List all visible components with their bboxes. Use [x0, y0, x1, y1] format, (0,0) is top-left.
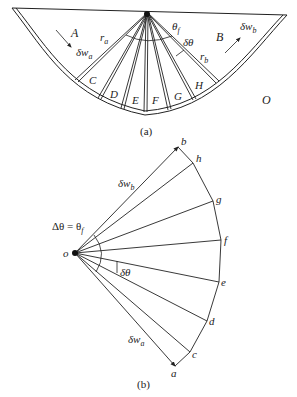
- delta-theta-label: δθ: [183, 36, 194, 48]
- region-label-f: F: [151, 94, 159, 106]
- point-label-a: a: [171, 367, 177, 379]
- caption-a: (a): [140, 125, 153, 138]
- r-b-label: rb: [200, 50, 208, 65]
- delta-w-a-label: δwa: [76, 46, 92, 61]
- origin-point: [72, 250, 78, 256]
- delta-theta-eq-label: Δθ = θf: [52, 220, 85, 235]
- r-a-label: ra: [100, 31, 108, 46]
- figure-b: o b h g f e d c a Δθ = θf δθ δwb δwa (b): [52, 135, 229, 391]
- region-label-d: D: [109, 88, 118, 100]
- point-label-b: b: [181, 135, 187, 147]
- region-label-o: O: [262, 93, 271, 107]
- delta-theta-label-b: δθ: [120, 266, 131, 278]
- point-label-h: h: [196, 152, 202, 164]
- region-label-g: G: [174, 90, 182, 102]
- region-label-e: E: [131, 94, 139, 106]
- apex-point: [144, 11, 150, 17]
- delta-w-a-label-b: δwa: [128, 333, 144, 348]
- delta-w-b-label-b: δwb: [118, 177, 134, 192]
- figure-canvas: A B C D E F G H O δwa δwb ra rb θf δθ (a…: [0, 0, 297, 397]
- point-label-e: e: [221, 276, 226, 288]
- delta-w-b-arrow: [225, 38, 240, 53]
- region-label-b: B: [216, 30, 224, 44]
- delta-w-a-arrow: [56, 30, 71, 47]
- delta-w-b-label: δwb: [240, 20, 256, 35]
- region-label-a: A: [70, 26, 79, 40]
- velocity-rays: [75, 147, 221, 366]
- caption-b: (b): [137, 378, 150, 391]
- point-label-o: o: [63, 247, 69, 259]
- point-label-f: f: [224, 234, 229, 246]
- point-label-g: g: [216, 193, 222, 205]
- region-label-c: C: [89, 74, 97, 86]
- point-label-c: c: [192, 348, 197, 360]
- point-label-d: d: [209, 315, 215, 327]
- theta-f-label: θf: [172, 20, 181, 35]
- velocity-polygon: [175, 147, 221, 366]
- figure-a: A B C D E F G H O δwa δwb ra rb θf δθ (a…: [12, 8, 287, 138]
- delta-theta-tick: [176, 50, 184, 56]
- region-label-h: H: [194, 79, 204, 91]
